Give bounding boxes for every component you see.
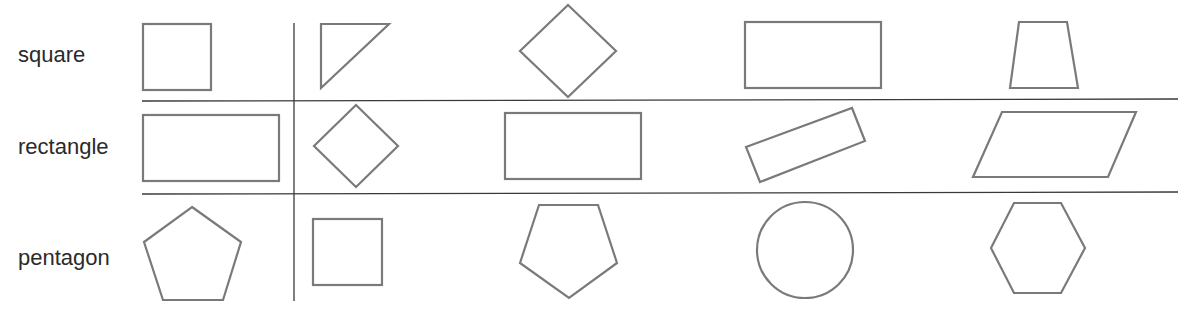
option-tilted-rectangle[interactable]: [746, 108, 865, 182]
option-square[interactable]: [313, 219, 382, 285]
row-divider-2: [142, 192, 1178, 194]
row-divider-1: [142, 99, 1178, 101]
option-circle[interactable]: [757, 202, 853, 298]
option-hexagon[interactable]: [991, 203, 1085, 293]
option-rectangle[interactable]: [505, 113, 641, 179]
example-square[interactable]: [143, 24, 211, 90]
option-rectangle[interactable]: [745, 22, 881, 88]
option-parallelogram[interactable]: [973, 112, 1136, 177]
example-pentagon[interactable]: [144, 207, 241, 300]
option-trapezoid[interactable]: [1010, 22, 1078, 88]
shape-grid: [0, 0, 1185, 314]
option-right-triangle[interactable]: [321, 24, 389, 88]
example-rectangle[interactable]: [143, 115, 279, 181]
option-pentagon[interactable]: [520, 205, 617, 298]
option-diamond-square[interactable]: [520, 5, 616, 97]
option-diamond-square[interactable]: [314, 105, 398, 187]
